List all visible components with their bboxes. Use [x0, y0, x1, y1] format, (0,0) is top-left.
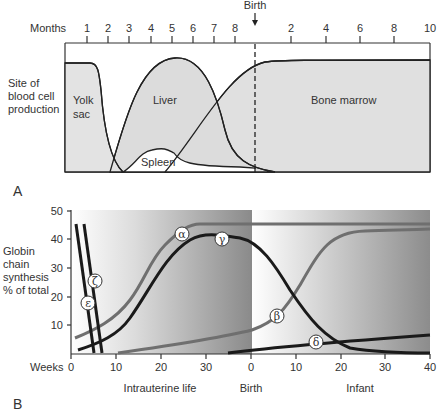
- x-tick-20: 20: [155, 361, 167, 373]
- postnatal-tick-4: 4: [323, 22, 329, 34]
- y-label-line: Globin: [3, 245, 49, 258]
- y-tick-20: 20: [51, 291, 63, 303]
- y-label-line: Site of: [8, 77, 59, 90]
- month-tick-1: 1: [84, 22, 90, 34]
- delta-label: δ: [309, 335, 323, 349]
- yolk-sac-label-line2: sac: [73, 108, 91, 120]
- y-tick-30: 30: [51, 262, 63, 274]
- site-of-production-label: Site of blood cell production: [8, 77, 59, 116]
- beta-label: β: [270, 309, 284, 323]
- svg-text:ζ: ζ: [92, 275, 98, 288]
- x-tick-birth-0: 0: [248, 361, 254, 373]
- y-label-line: synthesis: [3, 271, 49, 284]
- spleen-label: Spleen: [141, 156, 175, 168]
- infant-label: Infant: [346, 382, 374, 394]
- alpha-label: α: [175, 227, 189, 241]
- postnatal-tick-6: 6: [357, 22, 363, 34]
- weeks-axis-label: Weeks: [30, 361, 64, 373]
- postnatal-tick-10: 10: [424, 22, 436, 34]
- x-tick-infant-10: 10: [290, 361, 302, 373]
- panel-a-letter: A: [13, 183, 22, 199]
- epsilon-label: ε: [81, 296, 95, 310]
- y-label-line: chain: [3, 258, 49, 271]
- svg-text:β: β: [274, 310, 280, 323]
- months-axis-label: Months: [30, 22, 67, 34]
- x-tick-infant-40: 40: [424, 361, 436, 373]
- month-tick-3: 3: [126, 22, 132, 34]
- panel-a: 1 2 3 4 5 6 7 8 2 4 6 8 10 Months Birth …: [30, 0, 436, 172]
- gamma-label: γ: [215, 232, 229, 246]
- svg-text:δ: δ: [313, 336, 320, 349]
- y-tick-10: 10: [51, 319, 63, 331]
- x-tick-10: 10: [110, 361, 122, 373]
- birth-period-label: Birth: [240, 382, 263, 394]
- svg-text:α: α: [178, 228, 186, 241]
- hematopoiesis-figure: 1 2 3 4 5 6 7 8 2 4 6 8 10 Months Birth …: [0, 0, 440, 417]
- y-label-line: blood cell: [8, 90, 59, 103]
- zeta-label: ζ: [88, 274, 102, 288]
- svg-text:γ: γ: [219, 233, 226, 246]
- birth-label: Birth: [244, 0, 267, 11]
- y-label-line: production: [8, 103, 59, 116]
- intrauterine-life-label: Intrauterine life: [124, 382, 197, 394]
- figure-graphics: 1 2 3 4 5 6 7 8 2 4 6 8 10 Months Birth …: [0, 0, 440, 417]
- x-tick-0: 0: [68, 361, 74, 373]
- postnatal-tick-8: 8: [391, 22, 397, 34]
- y-tick-50: 50: [51, 205, 63, 217]
- liver-label: Liver: [153, 94, 177, 106]
- y-tick-40: 40: [51, 233, 63, 245]
- yolk-sac-label-line1: Yolk: [73, 94, 94, 106]
- x-tick-infant-20: 20: [335, 361, 347, 373]
- x-tick-infant-30: 30: [379, 361, 391, 373]
- y-label-line: % of total: [3, 284, 49, 297]
- x-tick-30: 30: [200, 361, 212, 373]
- month-tick-6: 6: [190, 22, 196, 34]
- postnatal-tick-2: 2: [288, 22, 294, 34]
- svg-text:ε: ε: [85, 297, 91, 310]
- panel-b-letter: B: [13, 396, 22, 412]
- month-tick-5: 5: [169, 22, 175, 34]
- panel-b: α γ ζ ε β δ 50 40 30 20 10 Weeks 0 1: [30, 205, 436, 394]
- bone-marrow-label: Bone marrow: [311, 94, 376, 106]
- month-tick-8: 8: [232, 22, 238, 34]
- month-tick-7: 7: [211, 22, 217, 34]
- month-tick-2: 2: [105, 22, 111, 34]
- month-tick-4: 4: [148, 22, 154, 34]
- globin-synthesis-label: Globin chain synthesis % of total: [3, 245, 49, 297]
